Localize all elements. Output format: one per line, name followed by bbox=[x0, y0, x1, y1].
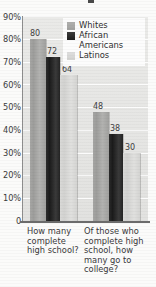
bar-value-label: 64 bbox=[62, 66, 72, 74]
legend-label: Whites bbox=[79, 21, 108, 30]
y-tick-label: 50% bbox=[0, 103, 21, 111]
y-axis: 90% 80% 70% 60% 50% 40% 30% 20% 10% 0 bbox=[0, 0, 21, 287]
x-category-label: Of those who complete high school, how m… bbox=[84, 227, 156, 275]
bar-value-label: 30 bbox=[125, 144, 135, 152]
legend-swatch-icon bbox=[67, 52, 75, 60]
cropped-title-fragment bbox=[88, 0, 94, 3]
x-category-label: How many complete high school? bbox=[27, 227, 79, 256]
bar-value-label: 38 bbox=[110, 125, 120, 133]
y-tick-label: 0 bbox=[0, 217, 21, 225]
y-tick-label: 90% bbox=[0, 13, 21, 21]
y-tick-label: 30% bbox=[0, 149, 21, 157]
y-axis-line bbox=[22, 16, 23, 222]
bar-whites-group2 bbox=[93, 112, 109, 221]
bar-latinos-group2 bbox=[123, 153, 140, 221]
legend: Whites African Americans Latinos bbox=[63, 18, 145, 66]
y-tick-label: 60% bbox=[0, 81, 21, 89]
legend-item-latinos: Latinos bbox=[67, 51, 142, 60]
bar-value-label: 48 bbox=[93, 103, 103, 111]
chart-figure: 90% 80% 70% 60% 50% 40% 30% 20% 10% 0 80… bbox=[0, 0, 156, 287]
y-tick-label: 70% bbox=[0, 58, 21, 66]
legend-label: African Americans bbox=[79, 31, 142, 50]
y-tick-label: 80% bbox=[0, 35, 21, 43]
bar-value-label: 80 bbox=[30, 30, 40, 38]
legend-label: Latinos bbox=[79, 51, 109, 60]
y-tick-label: 20% bbox=[0, 171, 21, 179]
y-tick-label: 40% bbox=[0, 126, 21, 134]
legend-item-african-americans: African Americans bbox=[67, 31, 142, 50]
bar-african-americans-group2 bbox=[109, 134, 123, 221]
x-axis-line bbox=[20, 221, 150, 223]
legend-swatch-icon bbox=[67, 32, 75, 40]
bar-whites-group1 bbox=[30, 39, 46, 221]
y-tick-label: 10% bbox=[0, 194, 21, 202]
bar-value-label: 72 bbox=[47, 48, 57, 56]
bar-latinos-group1 bbox=[60, 75, 77, 221]
legend-swatch-icon bbox=[67, 22, 75, 30]
legend-item-whites: Whites bbox=[67, 21, 142, 30]
bar-african-americans-group1 bbox=[46, 57, 60, 221]
gridline bbox=[22, 16, 148, 17]
